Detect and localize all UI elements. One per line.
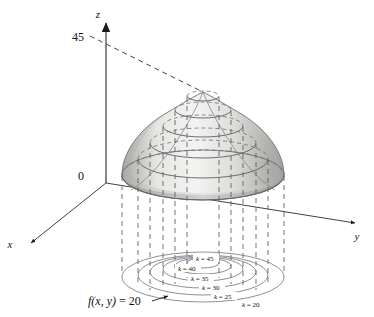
- level-label-k30: k = 30: [202, 284, 220, 292]
- z-axis-label: z: [95, 8, 101, 20]
- z-tick-0-label: 0: [78, 169, 84, 183]
- surface-level-curve-figure: z x y 45 0: [0, 0, 374, 317]
- k-value: = 25: [217, 293, 232, 301]
- z-tick-45-label: 45: [72, 30, 84, 44]
- level-label-k20: k = 20: [242, 301, 260, 309]
- level-label-k45: k = 45: [196, 255, 214, 263]
- callout-f-symbol: f(x, y): [88, 294, 116, 308]
- k-value: = 30: [205, 284, 220, 292]
- surface-3d: [122, 91, 284, 200]
- callout-text: f(x, y) = 20: [88, 294, 141, 308]
- x-axis: [31, 183, 106, 243]
- callout-equation: = 20: [116, 294, 141, 308]
- level-label-k25: k = 25: [214, 293, 232, 301]
- y-axis-label: y: [354, 230, 360, 242]
- k-value: = 20: [245, 301, 260, 309]
- level-label-k35: k = 35: [191, 275, 209, 283]
- k-value: = 40: [181, 265, 196, 273]
- figure-canvas: z x y 45 0: [0, 0, 374, 317]
- peak-height-leader: [90, 36, 203, 92]
- k-value: = 35: [194, 275, 209, 283]
- k-value: = 45: [199, 255, 214, 263]
- function-callout: f(x, y) = 20: [88, 294, 168, 308]
- x-axis-label: x: [7, 238, 13, 250]
- level-label-k40: k = 40: [178, 265, 196, 273]
